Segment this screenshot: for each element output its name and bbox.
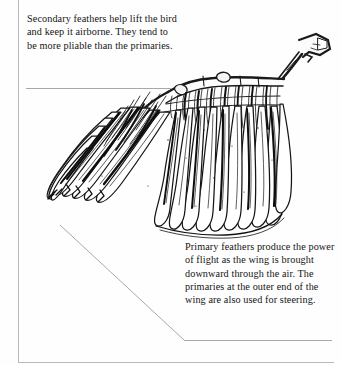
caption-primary-leader-line [0, 0, 341, 365]
page-canvas: Secondary feathers help lift the bird an… [0, 0, 341, 365]
